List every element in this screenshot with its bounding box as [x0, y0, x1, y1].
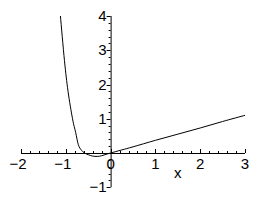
tick-labels: −2−101234321−1 [9, 7, 249, 195]
y-tick-label: −1 [89, 178, 106, 195]
y-tick-label: 1 [98, 110, 106, 127]
x-tick-label: 0 [106, 155, 114, 172]
x-tick-label: −2 [9, 155, 26, 172]
y-tick-label: 3 [98, 41, 106, 58]
x-axis-label: x [174, 164, 182, 181]
chart-svg: −2−101234321−1 x [0, 0, 257, 204]
x-tick-label: 1 [151, 155, 159, 172]
y-tick-label: 4 [98, 7, 106, 24]
x-tick-label: −1 [54, 155, 71, 172]
y-tick-label: 2 [98, 76, 106, 93]
x-tick-label: 2 [196, 155, 204, 172]
x-tick-label: 3 [241, 155, 249, 172]
chart: −2−101234321−1 x [0, 0, 257, 204]
function-curve [60, 16, 245, 156]
